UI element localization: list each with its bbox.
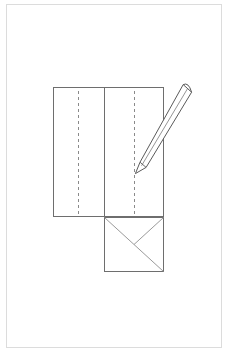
page-canvas xyxy=(0,0,228,356)
folding-diagram xyxy=(0,0,228,356)
